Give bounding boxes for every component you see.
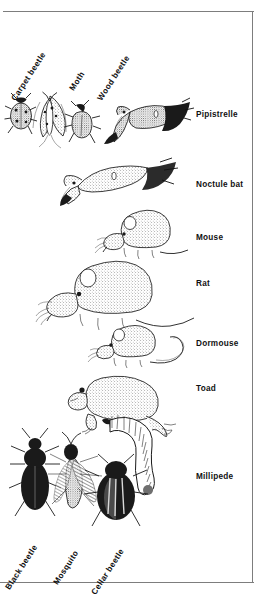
label-mosquito: Mosquito — [53, 549, 81, 586]
pipistrelle-figure — [86, 96, 198, 160]
frame-right-rule — [252, 11, 253, 583]
label-black-beetle: Black beetle — [5, 544, 40, 592]
label-cellar-beetle: Cellar beetle — [91, 548, 127, 597]
illustration-plate: Carpet beetle Moth Wood beetle Pipistrel… — [0, 0, 268, 606]
label-dormouse: Dormouse — [196, 340, 239, 348]
label-pipistrelle: Pipistrelle — [196, 111, 238, 119]
label-noctule-bat: Noctule bat — [196, 181, 243, 189]
label-rat: Rat — [196, 280, 210, 288]
mouse-figure — [94, 204, 202, 260]
rat-figure — [36, 254, 196, 332]
frame-bottom-rule — [0, 582, 254, 583]
label-toad: Toad — [196, 385, 216, 393]
frame-top-rule — [3, 11, 254, 12]
dormouse-figure — [86, 322, 196, 372]
label-millipede: Millipede — [196, 473, 233, 481]
cellar-beetle-figure — [84, 452, 148, 532]
